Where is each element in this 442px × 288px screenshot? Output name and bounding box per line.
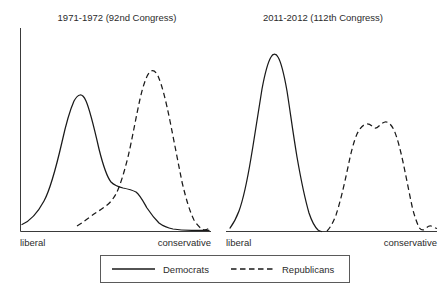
panel-right-title: 2011-2012 (112th Congress) <box>263 12 383 23</box>
congress-ideology-distribution-chart: 1971-1972 (92nd Congress) liberal conser… <box>0 0 442 288</box>
panel-left-title: 1971-1972 (92nd Congress) <box>58 12 177 23</box>
panel-left-liberal-label: liberal <box>20 237 45 248</box>
panel-left-republicans-curve <box>77 71 210 230</box>
panel-right-republicans-curve <box>327 122 437 231</box>
panel-right-liberal-label: liberal <box>226 237 251 248</box>
panel-right-democrats-curve <box>230 54 322 232</box>
legend-label-democrats: Democrats <box>163 264 209 275</box>
panel-left: 1971-1972 (92nd Congress) liberal conser… <box>20 12 211 248</box>
legend-label-republicans: Republicans <box>282 264 335 275</box>
panel-left-axes <box>21 28 212 232</box>
panel-left-democrats-curve <box>22 95 209 230</box>
panel-right-conservative-label: conservative <box>384 237 437 248</box>
panel-left-conservative-label: conservative <box>158 237 211 248</box>
panel-right: 2011-2012 (112th Congress) liberal conse… <box>226 12 437 248</box>
chart-legend: Democrats Republicans <box>101 256 350 283</box>
